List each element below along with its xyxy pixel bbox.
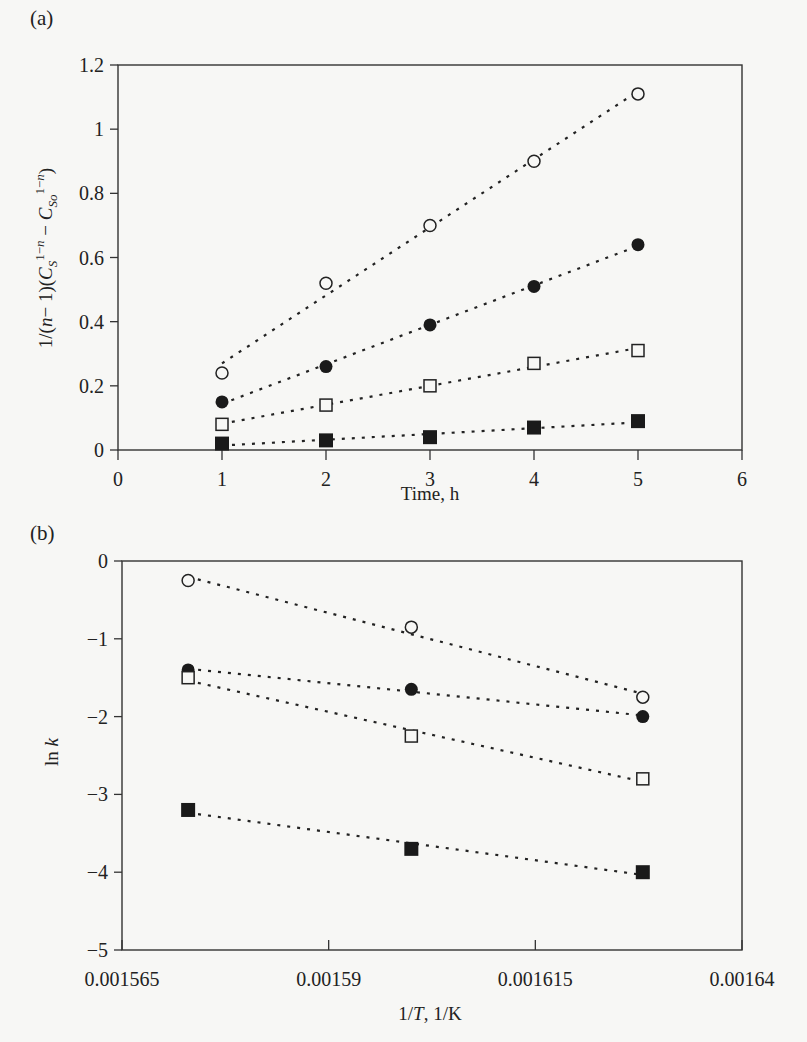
open-circle-marker [424, 219, 436, 231]
panel-b-x-axis-label: 1/T, 1/K [398, 1003, 462, 1024]
y-tick-label: −2 [87, 706, 108, 728]
filled-circle-marker [320, 360, 333, 373]
filled-square-marker [319, 433, 333, 447]
y-tick-label: 0.6 [79, 247, 104, 269]
filled-square-marker [423, 430, 437, 444]
filled-square-marker [404, 842, 418, 856]
open-square-marker [528, 357, 540, 369]
filled-circle-marker [424, 318, 437, 331]
x-tick-label: 0.001615 [498, 968, 573, 990]
open-circle-marker [405, 621, 417, 633]
panel-b-y-axis-label: ln k [41, 737, 62, 766]
filled-circle-marker [632, 238, 645, 251]
panel-b-fit-lines [188, 577, 643, 875]
open-circle-marker [632, 88, 644, 100]
x-tick-label: 1 [217, 468, 227, 490]
open-circle-marker [528, 155, 540, 167]
y-tick-label: −3 [87, 783, 108, 805]
open-circle-marker [637, 691, 649, 703]
y-tick-label: 0 [98, 550, 108, 572]
open-square-marker [405, 730, 417, 742]
panel-a-label: (a) [30, 6, 53, 30]
open-square-marker [182, 672, 194, 684]
open-square-marker [424, 380, 436, 392]
filled-circle-marker [528, 280, 541, 293]
filled-square-marker [636, 865, 650, 879]
y-tick-label: 1 [94, 118, 104, 140]
filled-square-marker [215, 437, 229, 451]
y-tick-label: 0.2 [79, 375, 104, 397]
figure: (a) 00.20.40.60.811.2 0123456 Time, h 1/… [0, 0, 807, 1042]
y-tick-label: 0.4 [79, 311, 104, 333]
panel-a-y-axis: 00.20.40.60.811.2 [79, 54, 118, 461]
panel-b-data-points [181, 574, 650, 879]
panel-a-x-axis-label: Time, h [401, 483, 460, 504]
open-circle-marker [320, 277, 332, 289]
filled-square-marker [527, 421, 541, 435]
panel-b-plot-frame [122, 561, 742, 950]
open-circle-fit-line [188, 577, 643, 694]
svg-text:ln k: ln k [41, 737, 62, 766]
x-tick-label: 0 [113, 468, 123, 490]
x-tick-label: 5 [633, 468, 643, 490]
open-square-marker [637, 773, 649, 785]
x-tick-label: 2 [321, 468, 331, 490]
panel-a-chart: (a) 00.20.40.60.811.2 0123456 Time, h 1/… [30, 6, 747, 504]
y-tick-label: 1.2 [79, 54, 104, 76]
panel-b-label: (b) [30, 521, 55, 545]
y-tick-label: 0.8 [79, 182, 104, 204]
y-tick-label: −1 [87, 628, 108, 650]
svg-text:1/(n− 1)(CS1−n − CSo1−n): 1/(n− 1)(CS1−n − CSo1−n) [32, 168, 60, 348]
x-tick-label: 0.00164 [710, 968, 775, 990]
open-circle-marker [216, 367, 228, 379]
panel-a-data-points [215, 88, 645, 451]
x-tick-label: 4 [529, 468, 539, 490]
x-tick-label: 6 [737, 468, 747, 490]
open-square-marker [320, 399, 332, 411]
y-tick-label: −5 [87, 939, 108, 961]
x-tick-label: 0.00159 [296, 968, 361, 990]
filled-circle-marker [636, 710, 649, 723]
panel-b-y-axis: 0−1−2−3−4−5 [87, 550, 122, 961]
open-square-marker [632, 345, 644, 357]
y-tick-label: −4 [87, 861, 108, 883]
filled-square-marker [181, 803, 195, 817]
filled-circle-marker [405, 683, 418, 696]
panel-b-x-axis: 0.0015650.001590.0016150.00164 [85, 940, 775, 990]
x-tick-label: 0.001565 [85, 968, 160, 990]
y-tick-label: 0 [94, 439, 104, 461]
panel-b-chart: (b) 0−1−2−3−4−5 0.0015650.001590.0016150… [30, 521, 775, 1024]
open-square-marker [216, 418, 228, 430]
panel-a-y-axis-label: 1/(n− 1)(CS1−n − CSo1−n) [32, 168, 60, 348]
open-circle-marker [182, 574, 194, 586]
filled-circle-marker [216, 395, 229, 408]
filled-square-marker [631, 414, 645, 428]
